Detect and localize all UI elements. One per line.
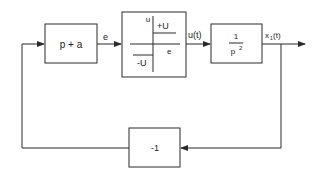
- lead-block-label: p + a: [60, 39, 83, 50]
- output-label-base: x: [265, 31, 269, 40]
- error-signal-label: e: [103, 32, 108, 42]
- plant-block: 1 p 2: [211, 24, 262, 63]
- relay-block: u +U e -U: [122, 12, 186, 77]
- output-label-arg: (t): [273, 31, 281, 40]
- output-signal-label: x 1 (t): [265, 31, 281, 41]
- relay-axis-e-label: e: [167, 47, 172, 56]
- relay-axis-u-label: u: [146, 15, 150, 24]
- relay-plus-u-label: +U: [157, 21, 169, 31]
- plant-numerator: 1: [234, 32, 239, 41]
- control-signal-label: u(t): [188, 30, 202, 40]
- plant-denominator: p: [231, 47, 236, 56]
- lead-block: p + a: [45, 24, 97, 63]
- feedback-block: -1: [129, 128, 180, 167]
- feedback-block-label: -1: [151, 143, 159, 153]
- relay-minus-u-label: -U: [137, 58, 147, 68]
- block-diagram: p + a e u +U e -U u(t) 1 p 2 x 1 (t) -1: [0, 0, 321, 174]
